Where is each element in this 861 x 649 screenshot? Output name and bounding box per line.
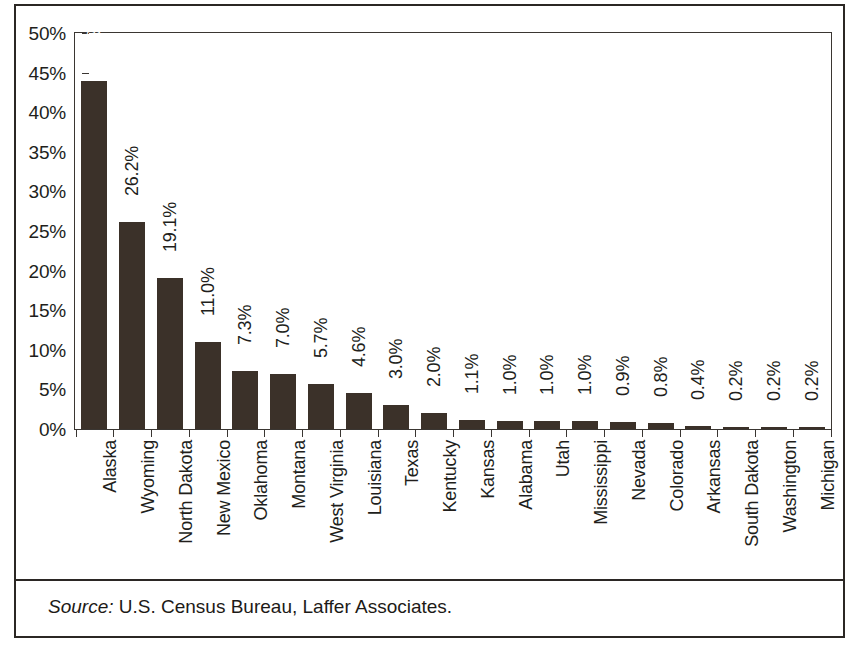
x-axis-category-label: Michigan (819, 440, 837, 510)
y-axis-tick-label: 10% (29, 341, 66, 360)
bar (572, 421, 598, 429)
y-axis-tick-label: 5% (39, 380, 66, 399)
bar-slot: 0.8% (642, 33, 680, 429)
x-axis-category-label: West Virginia (328, 440, 346, 543)
bar-slot: 4.6% (340, 33, 378, 429)
bar (308, 384, 334, 429)
bar-slot: 11.0% (189, 33, 227, 429)
x-axis-category-label: Utah (554, 440, 572, 477)
x-axis-category-label: Kentucky (441, 440, 459, 512)
x-axis-category-label: Mississippi (592, 440, 610, 525)
x-axis-tick-mark (113, 429, 114, 437)
x-axis-tick-mark (566, 429, 567, 437)
bar-slot: 1.0% (566, 33, 604, 429)
x-axis-tick-mark (793, 429, 794, 437)
bar-value-label: 1.1% (463, 354, 481, 394)
bar (421, 413, 447, 429)
x-axis-category-label: South Dakota (743, 440, 761, 547)
bar-slot: 1.1% (453, 33, 491, 429)
x-axis-category-label: Kansas (479, 440, 497, 499)
plot-area: 44.0%26.2%19.1%11.0%7.3%7.0%5.7%4.6%3.0%… (76, 33, 831, 429)
x-axis-category-label: Washington (781, 440, 799, 532)
x-axis-tick-mark (491, 429, 492, 437)
x-axis-tick-mark (76, 429, 77, 437)
x-axis-tick-mark (642, 429, 643, 437)
bar-value-label: 26.2% (123, 145, 141, 195)
bar-value-label: 7.3% (236, 305, 254, 345)
bar-slot: 7.3% (227, 33, 265, 429)
bar (157, 278, 183, 429)
x-axis-category-label: Nevada (630, 440, 648, 501)
bar-value-label: 0.2% (765, 361, 783, 401)
bar (346, 393, 372, 429)
bar-slot: 0.2% (717, 33, 755, 429)
bar-slot: 3.0% (378, 33, 416, 429)
bar-value-label: 4.6% (350, 326, 368, 366)
bar-value-label: 0.8% (652, 356, 670, 396)
bar-slot: 0.9% (604, 33, 642, 429)
x-axis-tick-mark (151, 429, 152, 437)
bar-value-label: 0.2% (803, 361, 821, 401)
y-axis-tick-label: 0% (39, 420, 66, 439)
source-note: Source: U.S. Census Bureau, Laffer Assoc… (48, 596, 452, 618)
bar (534, 421, 560, 429)
x-axis-category-label: Wyoming (139, 440, 157, 513)
x-axis-category-label: North Dakota (177, 440, 195, 544)
x-axis-tick-mark (680, 429, 681, 437)
bar-slot: 2.0% (415, 33, 453, 429)
bar (610, 422, 636, 429)
x-axis-tick-mark (529, 429, 530, 437)
x-axis-category-label: Montana (290, 440, 308, 509)
y-axis-tick-label: 35% (29, 143, 66, 162)
bar-slot: 19.1% (151, 33, 189, 429)
bar (81, 81, 107, 429)
bar-value-label: 1.0% (501, 355, 519, 395)
bar-slot: 26.2% (113, 33, 151, 429)
bar-slot: 7.0% (264, 33, 302, 429)
x-axis-tick-mark (264, 429, 265, 437)
bar-value-label: 5.7% (312, 318, 330, 358)
bar-value-label: 7.0% (274, 307, 292, 347)
x-axis-labels: AlaskaWyomingNorth DakotaNew MexicoOklah… (76, 440, 831, 570)
x-axis-category-label: Alaska (101, 440, 119, 493)
bar-value-label: 0.9% (614, 356, 632, 396)
bar-value-label: 3.0% (387, 339, 405, 379)
bar-value-label: 2.0% (425, 347, 443, 387)
bar-slot: 1.0% (529, 33, 567, 429)
y-axis-tick-label: 30% (29, 182, 66, 201)
x-axis-category-label: Oklahoma (252, 440, 270, 520)
x-axis-tick-mark (340, 429, 341, 437)
x-axis-tick-mark (717, 429, 718, 437)
bar-slot: 44.0% (76, 33, 114, 429)
bar-value-label: 1.0% (576, 355, 594, 395)
x-axis-tick-mark (302, 429, 303, 437)
x-axis-category-label: Louisiana (366, 440, 384, 515)
bar-slot: 0.2% (755, 33, 793, 429)
bar-slot: 5.7% (302, 33, 340, 429)
x-axis-category-label: New Mexico (215, 440, 233, 536)
bar (232, 371, 258, 429)
y-axis-tick-label: 40% (29, 103, 66, 122)
x-axis-tick-mark (831, 429, 832, 437)
x-axis-tick-mark (189, 429, 190, 437)
y-axis-tick-label: 50% (29, 24, 66, 43)
x-axis-tick-mark (453, 429, 454, 437)
y-axis-tick-label: 20% (29, 262, 66, 281)
bar-value-label: 1.0% (538, 355, 556, 395)
bar (119, 222, 145, 430)
source-divider (16, 579, 843, 581)
bar-slot: 1.0% (491, 33, 529, 429)
y-axis-tick-label: 25% (29, 222, 66, 241)
x-axis-ticks (76, 429, 831, 438)
bar-value-label: 19.1% (161, 202, 179, 252)
bar-value-label: 0.4% (689, 360, 707, 400)
x-axis-tick-mark (604, 429, 605, 437)
y-axis-tick-label: 45% (29, 64, 66, 83)
y-axis: 0%5%10%15%20%25%30%35%40%45%50% (14, 22, 72, 442)
bar-slot: 0.2% (793, 33, 831, 429)
bar-slot: 0.4% (680, 33, 718, 429)
x-axis-category-label: Texas (403, 440, 421, 486)
bar (270, 374, 296, 429)
x-axis-category-label: Alabama (517, 440, 535, 510)
bar-value-label: 0.2% (727, 361, 745, 401)
